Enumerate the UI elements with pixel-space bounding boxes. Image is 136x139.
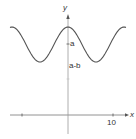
x-tick-label-10: 10 xyxy=(107,119,116,127)
y-level-label-a: a xyxy=(70,40,74,48)
y-level-label-a-minus-b: a-b xyxy=(69,62,81,70)
x-axis-label: x xyxy=(130,111,134,119)
y-axis-arrow-icon xyxy=(66,14,69,19)
x-axis-arrow-icon xyxy=(125,113,129,116)
y-axis-label: y xyxy=(63,4,67,12)
